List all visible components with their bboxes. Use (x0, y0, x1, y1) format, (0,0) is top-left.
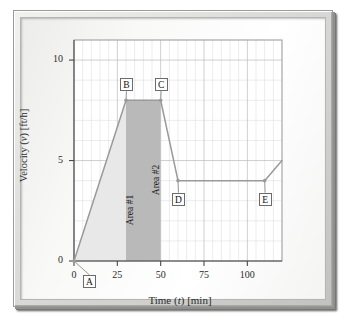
x-tick-label-50: 50 (148, 269, 174, 280)
area-label-area2: Area #2 (151, 165, 161, 195)
point-label-B: B (120, 78, 133, 91)
point-label-C: C (155, 78, 168, 91)
x-tick-label-100: 100 (234, 269, 260, 280)
y-tick-label-10: 10 (41, 53, 63, 64)
y-tick-label-0: 0 (41, 254, 63, 265)
area-label-area1: Area #1 (125, 195, 135, 225)
x-tick-label-25: 25 (104, 269, 130, 280)
point-label-E: E (259, 193, 272, 206)
point-label-D: D (172, 193, 185, 206)
x-axis-ticks (74, 261, 247, 266)
y-axis-ticks (69, 60, 74, 261)
x-axis-title-prefix: Time ( (148, 294, 177, 306)
y-axis-title-suffix: ) [ft/h] (18, 109, 29, 137)
x-tick-label-75: 75 (191, 269, 217, 280)
x-axis-title: Time (t) [min] (60, 294, 300, 306)
y-axis-title-prefix: Velocity ( (18, 141, 29, 182)
y-axis-title: Velocity (v) [ft/h] (18, 91, 29, 201)
point-label-A: A (83, 275, 96, 288)
y-tick-label-5: 5 (41, 154, 63, 165)
x-axis-title-suffix: ) [min] (181, 294, 212, 306)
y-axis-title-variable: v (18, 136, 29, 141)
